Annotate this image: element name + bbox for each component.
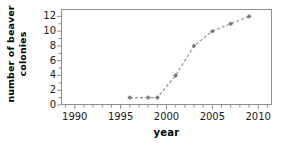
chart-figure: 024681012 19901995200020052010 year numb… (0, 0, 300, 150)
x-tick-label: 1995 (101, 111, 141, 122)
x-tick-label: 2000 (147, 111, 187, 122)
x-tick-label: 2005 (192, 111, 232, 122)
x-axis-title: year (61, 127, 272, 138)
y-axis-title-line-2: colonies (17, 0, 29, 114)
y-axis-title: number of beaver colonies (5, 0, 29, 114)
x-tick-label: 1990 (55, 111, 95, 122)
x-tick-label: 2010 (238, 111, 278, 122)
y-axis-title-line-1: number of beaver (5, 0, 17, 114)
